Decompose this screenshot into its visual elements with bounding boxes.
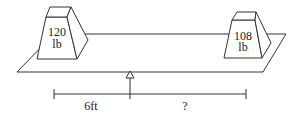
left-distance-label: 6ft (84, 99, 98, 113)
seesaw-diagram: 120 lb 108 lb 6ft ? (0, 0, 302, 121)
left-weight-unit: lb (52, 37, 61, 51)
right-weight-unit: lb (238, 40, 247, 54)
right-distance-label: ? (182, 99, 187, 113)
